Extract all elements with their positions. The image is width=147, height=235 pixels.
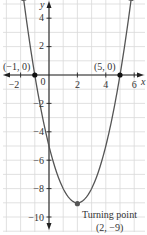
point-label-left: (−1, 0): [3, 61, 30, 73]
y-tick-label: −10: [28, 212, 44, 223]
y-tick-label: −6: [33, 155, 44, 166]
x-intercept-left-point: [32, 72, 37, 77]
turning-point-coords: (2, −9): [96, 222, 123, 234]
y-tick-label: −2: [33, 98, 44, 109]
x-tick-label: 4: [103, 79, 108, 90]
turning-point-label: Turning point: [82, 209, 137, 220]
x-axis-label: x: [140, 76, 146, 87]
point-label-right: (5, 0): [94, 61, 116, 73]
y-axis-down-arrow-icon: [47, 223, 52, 230]
y-tick-label: −4: [33, 126, 44, 137]
x-tick-label: 2: [75, 79, 80, 90]
x-intercept-right-point: [117, 72, 122, 77]
grid: [3, 0, 145, 232]
y-axis-up-arrow-icon: [47, 1, 52, 8]
parabola-graph: y x −2 0 2 4 6 4 2 −2 −4 −6 −8 −10 (−1, …: [0, 0, 147, 235]
y-tick-label: 4: [39, 12, 44, 23]
y-axis-label: y: [39, 0, 45, 10]
y-tick-label: 2: [39, 40, 44, 51]
turning-point: [75, 201, 80, 206]
x-tick-label: 6: [132, 79, 137, 90]
y-tick-label: −8: [33, 183, 44, 194]
x-tick-label: −2: [9, 79, 20, 90]
origin-label: 0: [41, 76, 46, 87]
